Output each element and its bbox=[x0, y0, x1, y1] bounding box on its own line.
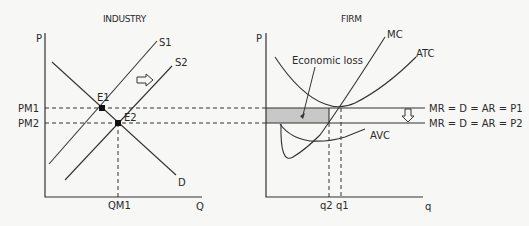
firm-panel: FIRM P q MR = D = AR = P1 MR = D = AR = … bbox=[256, 14, 523, 212]
e1-label: E1 bbox=[97, 92, 110, 103]
industry-y-axis-label: P bbox=[36, 33, 42, 44]
industry-x-axis-label: Q bbox=[196, 201, 204, 212]
avc-curve bbox=[280, 124, 365, 141]
avc-label: AVC bbox=[370, 130, 390, 141]
down-arrow-icon bbox=[402, 109, 414, 122]
q1-label: q1 bbox=[336, 200, 349, 211]
q2-label: q2 bbox=[320, 200, 333, 211]
firm-title: FIRM bbox=[341, 14, 362, 24]
qm1-label: QM1 bbox=[108, 200, 131, 211]
firm-x-axis-label: q bbox=[425, 201, 431, 212]
mc-label: MC bbox=[387, 29, 403, 40]
firm-y-axis-label: P bbox=[256, 33, 262, 44]
atc-label: ATC bbox=[416, 48, 435, 59]
mr-p1-label: MR = D = AR = P1 bbox=[429, 103, 523, 114]
industry-panel: INDUSTRY P Q S1 S2 D E1 E2 PM1 PM2 QM1 bbox=[18, 14, 266, 212]
diagram-canvas: INDUSTRY P Q S1 S2 D E1 E2 PM1 PM2 QM1 F… bbox=[0, 0, 529, 226]
demand-curve bbox=[52, 62, 176, 175]
s2-label: S2 bbox=[175, 57, 188, 68]
right-arrow-icon bbox=[137, 74, 153, 86]
d-label: D bbox=[178, 177, 186, 188]
economic-loss-area bbox=[266, 108, 329, 123]
economic-loss-label: Economic loss bbox=[292, 55, 363, 66]
mr-p2-label: MR = D = AR = P2 bbox=[429, 118, 523, 129]
pm1-label: PM1 bbox=[18, 103, 39, 114]
s1-label: S1 bbox=[159, 37, 172, 48]
e2-label: E2 bbox=[124, 112, 137, 123]
e2-point bbox=[115, 120, 121, 126]
industry-title: INDUSTRY bbox=[103, 14, 147, 24]
pm2-label: PM2 bbox=[18, 118, 39, 129]
e1-point bbox=[99, 105, 105, 111]
